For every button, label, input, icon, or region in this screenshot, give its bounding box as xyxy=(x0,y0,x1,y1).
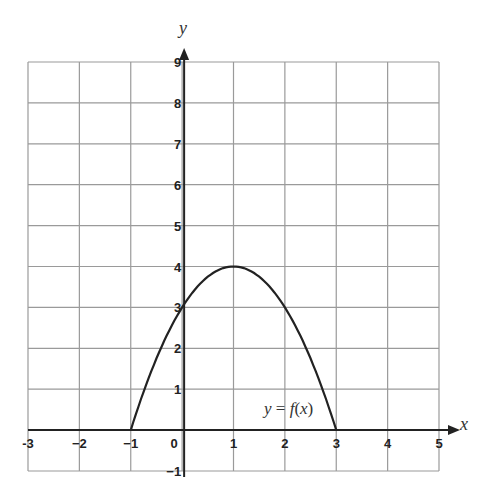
y-tick-label: −1 xyxy=(166,464,181,479)
x-tick-label: -3 xyxy=(22,436,34,451)
y-tick-label: 2 xyxy=(174,341,181,356)
x-axis-label: x xyxy=(459,414,468,434)
axes xyxy=(28,48,460,477)
y-tick-label: 4 xyxy=(174,260,182,275)
x-tick-label: 5 xyxy=(435,436,442,451)
y-tick-label: 7 xyxy=(174,137,181,152)
y-tick-label: 1 xyxy=(174,382,181,397)
x-tick-label: 0 xyxy=(171,436,178,451)
x-tick-label: −2 xyxy=(72,436,87,451)
x-tick-label: −1 xyxy=(123,436,138,451)
x-tick-label: 1 xyxy=(230,436,237,451)
function-graph: -3−2−1012345−1123456789 y x y = f(x) xyxy=(0,0,491,501)
y-tick-label: 5 xyxy=(174,219,181,234)
curve-label: y = f(x) xyxy=(262,399,313,418)
y-tick-label: 9 xyxy=(174,55,181,70)
y-tick-label: 8 xyxy=(174,96,181,111)
x-tick-label: 3 xyxy=(333,436,340,451)
y-axis-label: y xyxy=(177,18,187,38)
y-tick-label: 6 xyxy=(174,178,181,193)
x-tick-label: 2 xyxy=(281,436,288,451)
x-tick-label: 4 xyxy=(384,436,392,451)
x-axis-arrow-icon xyxy=(448,425,460,435)
